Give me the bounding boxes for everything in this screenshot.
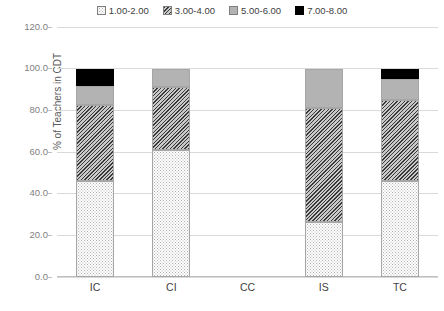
bar-segment-IS-5.00-6.00[interactable] <box>305 69 343 109</box>
legend-swatch-black-icon <box>295 6 304 15</box>
bar-segment-CI-1.00-2.00[interactable] <box>152 150 190 277</box>
bar-segment-TC-7.00-8.00[interactable] <box>381 69 419 79</box>
bar-segment-TC-1.00-2.00[interactable] <box>381 181 419 277</box>
legend-label-3: 5.00-6.00 <box>241 6 281 16</box>
y-tick-20.0: 20.0 <box>0 229 48 240</box>
chart-legend: 1.00-2.00 3.00-4.00 5.00-6.00 7.00-8.00 <box>0 6 444 16</box>
legend-item-2[interactable]: 3.00-4.00 <box>163 6 215 16</box>
bar-segment-IC-5.00-6.00[interactable] <box>76 86 114 104</box>
bar-IS[interactable] <box>305 27 343 277</box>
y-tick-100.0: 100.0 <box>0 62 48 73</box>
legend-label-1: 1.00-2.00 <box>109 6 149 16</box>
bar-TC[interactable] <box>381 27 419 277</box>
bar-segment-IS-3.00-4.00[interactable] <box>305 108 343 222</box>
y-tick-mark-40.0 <box>48 193 52 194</box>
y-axis-tick-labels: 0.020.040.060.080.0100.0120.0 <box>0 27 52 277</box>
x-tick-CC: CC <box>208 281 288 293</box>
legend-swatch-hatch-icon <box>163 6 172 15</box>
y-tick-mark-100.0 <box>48 68 52 69</box>
bar-segment-IC-3.00-4.00[interactable] <box>76 105 114 182</box>
bar-CI[interactable] <box>152 27 190 277</box>
y-tick-80.0: 80.0 <box>0 104 48 115</box>
legend-label-4: 7.00-8.00 <box>307 6 347 16</box>
bar-segment-IC-1.00-2.00[interactable] <box>76 181 114 277</box>
y-tick-mark-0.0 <box>48 277 52 278</box>
x-tick-TC: TC <box>360 281 440 293</box>
x-axis-tick-labels: ICCICCISTC <box>57 281 438 301</box>
y-tick-40.0: 40.0 <box>0 187 48 198</box>
legend-item-4[interactable]: 7.00-8.00 <box>295 6 347 16</box>
x-tick-CI: CI <box>131 281 211 293</box>
y-tick-0.0: 0.0 <box>0 271 48 282</box>
y-tick-mark-120.0 <box>48 27 52 28</box>
x-tick-IS: IS <box>284 281 364 293</box>
legend-swatch-gray-icon <box>229 6 238 15</box>
bar-segment-TC-3.00-4.00[interactable] <box>381 100 419 181</box>
plot-area <box>57 27 438 277</box>
y-tick-60.0: 60.0 <box>0 146 48 157</box>
chart-container: 1.00-2.00 3.00-4.00 5.00-6.00 7.00-8.00 … <box>0 0 444 311</box>
bar-segment-IC-7.00-8.00[interactable] <box>76 69 114 87</box>
legend-label-2: 3.00-4.00 <box>175 6 215 16</box>
x-tick-IC: IC <box>55 281 135 293</box>
legend-item-1[interactable]: 1.00-2.00 <box>97 6 149 16</box>
bar-segment-CI-5.00-6.00[interactable] <box>152 69 190 88</box>
y-tick-mark-20.0 <box>48 235 52 236</box>
bar-segment-IS-1.00-2.00[interactable] <box>305 222 343 277</box>
legend-item-3[interactable]: 5.00-6.00 <box>229 6 281 16</box>
y-tick-mark-80.0 <box>48 110 52 111</box>
y-tick-mark-60.0 <box>48 152 52 153</box>
bar-IC[interactable] <box>76 27 114 277</box>
legend-swatch-dots-icon <box>97 6 106 15</box>
bar-segment-CI-3.00-4.00[interactable] <box>152 87 190 150</box>
bar-segment-TC-5.00-6.00[interactable] <box>381 79 419 100</box>
y-tick-120.0: 120.0 <box>0 21 48 32</box>
